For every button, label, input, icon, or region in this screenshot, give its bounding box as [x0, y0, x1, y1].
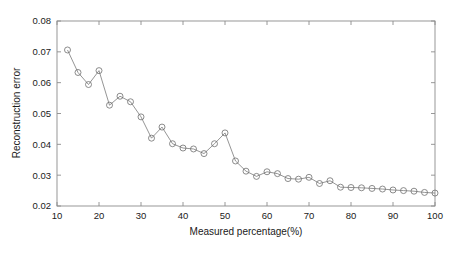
- y-axis-title: Reconstruction error: [11, 67, 22, 158]
- x-tick-label-40: 40: [178, 210, 189, 221]
- y-tick-label-0.06: 0.06: [33, 77, 52, 88]
- figure-container: 102030405060708090100 0.020.030.040.050.…: [0, 0, 456, 253]
- x-tick-label-80: 80: [346, 210, 357, 221]
- x-tick-label-90: 90: [388, 210, 399, 221]
- x-tick-label-30: 30: [136, 210, 147, 221]
- y-tick-label-0.08: 0.08: [33, 15, 52, 26]
- x-tick-label-50: 50: [220, 210, 231, 221]
- x-axis-title: Measured percentage(%): [190, 226, 303, 237]
- x-tick-label-100: 100: [427, 210, 443, 221]
- reconstruction-error-line-chart: 102030405060708090100 0.020.030.040.050.…: [0, 0, 456, 253]
- y-tick-label-0.02: 0.02: [33, 200, 52, 211]
- x-tick-label-60: 60: [262, 210, 273, 221]
- y-tick-label-0.05: 0.05: [33, 108, 52, 119]
- y-tick-label-0.04: 0.04: [33, 139, 52, 150]
- x-tick-label-20: 20: [94, 210, 105, 221]
- y-tick-label-0.03: 0.03: [33, 170, 52, 181]
- x-tick-label-10: 10: [52, 210, 63, 221]
- x-tick-label-70: 70: [304, 210, 315, 221]
- y-tick-label-0.07: 0.07: [33, 46, 52, 57]
